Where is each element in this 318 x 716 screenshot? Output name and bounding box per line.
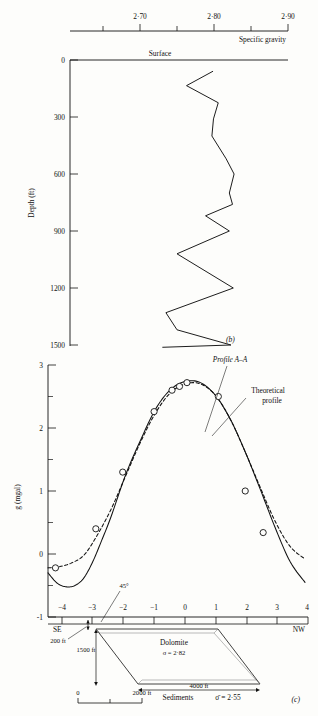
sediments-label: Sediments	[163, 693, 194, 702]
x-tick-label-3: 3	[275, 603, 279, 612]
gravity-profile-panel: 3 2 1 0 -1 g (mgal) −4 −3 −2 −1 0 1 2	[13, 355, 309, 634]
x-tick-label-4: 4	[305, 603, 309, 612]
g-tick-label-1: 1	[39, 487, 43, 496]
theoretical-annotation-line2: profile	[262, 396, 282, 405]
depth-to-top-leader	[68, 627, 86, 639]
scale-bar: 0 2000 ft	[76, 689, 151, 703]
depth-tick-label-600: 600	[54, 170, 65, 179]
figure-svg: 2·70 2·80 2·90 Specific gravity Surface …	[0, 0, 318, 716]
gravity-station-point	[169, 387, 175, 393]
depth-to-top-arrowhead-down	[86, 627, 89, 630]
sediments-density-label: σ̄ = 2·55	[215, 693, 241, 702]
density-log-trace	[163, 71, 234, 347]
depth-axis: 0 300 600 900 1200 1500 Depth (ft)	[27, 56, 78, 350]
depth-tick-label-1200: 1200	[50, 284, 65, 293]
thickness-arrowhead-bottom	[94, 682, 98, 686]
gravity-station-point	[242, 488, 248, 494]
sg-tick-label-270: 2·70	[133, 12, 147, 21]
gravity-station-point	[151, 409, 157, 415]
g-tick-label-2: 2	[39, 424, 43, 433]
scale-bar-end-label: 2000 ft	[133, 689, 152, 696]
depth-to-top-arrowhead-up	[86, 620, 89, 623]
g-tick-label-0: 0	[39, 550, 43, 559]
width-label: 4000 ft	[190, 682, 209, 689]
dolomite-label: Dolomite	[160, 638, 189, 647]
theoretical-leader	[212, 398, 246, 436]
x-tick-label-m1: −1	[150, 603, 158, 612]
theoretical-profile-curve	[48, 383, 305, 568]
sg-tick-label-280: 2·80	[207, 12, 221, 21]
panel-c-label: (c)	[292, 695, 301, 704]
dolomite-bevel-br	[256, 680, 260, 684]
g-tick-label-3: 3	[39, 361, 43, 370]
gravity-station-point	[93, 526, 99, 532]
x-tick-label-2: 2	[245, 603, 249, 612]
dolomite-bevel-tr	[214, 629, 218, 633]
surface-label: Surface	[149, 49, 172, 58]
dolomite-bevel-bl	[138, 680, 142, 684]
dolomite-density-label: σ = 2·82	[163, 649, 186, 656]
figure-container: 2·70 2·80 2·90 Specific gravity Surface …	[0, 0, 318, 716]
depth-axis-label: Depth (ft)	[27, 188, 36, 218]
x-tick-label-0: 0	[183, 603, 187, 612]
x-tick-label-m4: −4	[58, 603, 66, 612]
depth-tick-label-300: 300	[54, 113, 65, 122]
scale-bar-start-label: 0	[76, 689, 80, 696]
gravity-station-point	[260, 529, 266, 535]
dip-angle-annotation: 45°	[119, 582, 129, 589]
gravity-station-point	[52, 565, 58, 571]
theoretical-annotation-line1: Theoretical	[251, 386, 285, 395]
g-tick-label-m1: -1	[37, 613, 43, 622]
direction-label-se: SE	[53, 625, 62, 634]
cross-section-panel: Dolomite σ = 2·82 200 ft 1500 ft 4000 ft…	[48, 620, 308, 704]
depth-tick-label-0: 0	[61, 56, 65, 65]
x-tick-label-m2: −2	[119, 603, 127, 612]
thickness-label: 1500 ft	[77, 646, 96, 653]
gravity-y-axis-label: g (mgal)	[13, 484, 22, 510]
gravity-station-points	[52, 380, 266, 571]
gravity-station-point	[176, 383, 182, 389]
x-tick-label-1: 1	[214, 603, 218, 612]
panel-b-label: (b)	[226, 335, 235, 344]
specific-gravity-axis-label: Specific gravity	[239, 35, 286, 44]
depth-to-top-label: 200 ft	[50, 637, 66, 644]
profile-aa-leader	[205, 366, 227, 432]
sg-tick-label-290: 2·90	[281, 12, 295, 21]
width-arrowhead-right	[256, 688, 260, 692]
gravity-station-point	[184, 380, 190, 386]
depth-tick-label-1500: 1500	[50, 341, 65, 350]
depth-tick-label-900: 900	[54, 227, 65, 236]
density-log-panel: 2·70 2·80 2·90 Specific gravity Surface …	[27, 12, 295, 350]
profile-aa-curve	[48, 381, 305, 587]
profile-aa-annotation: Profile A–A	[212, 355, 248, 364]
x-tick-label-m3: −3	[88, 603, 96, 612]
gravity-station-point	[120, 469, 126, 475]
direction-label-nw: NW	[293, 625, 305, 634]
gravity-y-axis: 3 2 1 0 -1 g (mgal)	[13, 361, 56, 622]
specific-gravity-axis: 2·70 2·80 2·90 Specific gravity	[70, 12, 295, 44]
